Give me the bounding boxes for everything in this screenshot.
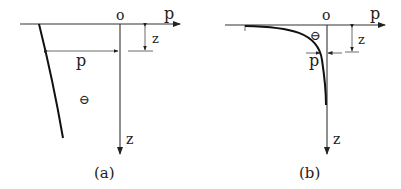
p-axis-label-b: p <box>370 4 380 23</box>
depth-label-a: z <box>152 31 159 46</box>
depth-label-b: z <box>358 32 365 47</box>
p-axis-label-a: p <box>164 4 174 23</box>
figure: o p z p z ⊖ (a) o p z p z ⊖ (b) <box>0 0 401 189</box>
pressure-curve-a <box>39 24 63 138</box>
caption-a: (a) <box>94 164 115 182</box>
pressure-label-a: p <box>76 51 86 70</box>
z-axis-label-a: z <box>126 131 133 147</box>
origin-label-a: o <box>116 7 124 23</box>
caption-b: (b) <box>299 164 320 182</box>
pressure-label-b: p <box>309 51 319 70</box>
negative-sign-a: ⊖ <box>79 92 90 107</box>
z-axis-label-b: z <box>333 131 340 147</box>
panel-b: o p z p z ⊖ (b) <box>225 4 385 182</box>
origin-label-b: o <box>322 7 330 23</box>
panel-a: o p z p z ⊖ (a) <box>20 4 180 182</box>
negative-sign-b: ⊖ <box>310 28 321 43</box>
